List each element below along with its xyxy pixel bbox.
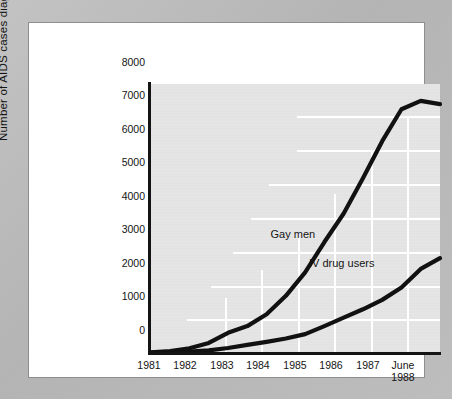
y-tick-6000: 6000 — [101, 124, 145, 134]
figure-root: Number of AIDS cases diagnosed 8000 7000… — [0, 0, 452, 399]
y-axis-line — [148, 82, 151, 355]
series-label-gay-men: Gay men — [271, 228, 316, 240]
series-curves — [151, 84, 440, 353]
y-tick-4000: 4000 — [101, 191, 145, 201]
y-tick-0: 0 — [101, 325, 145, 335]
y-tick-5000: 5000 — [101, 157, 145, 167]
y-axis-tick-labels: 8000 7000 6000 5000 4000 3000 2000 1000 … — [95, 23, 145, 399]
plot-area: Gay men IV drug users — [151, 84, 440, 353]
series-label-iv-drug-users: IV drug users — [309, 257, 374, 269]
x-axis-line — [148, 352, 441, 355]
y-tick-3000: 3000 — [101, 224, 145, 234]
x-tick-june-1988: June 1988 — [381, 360, 425, 383]
y-tick-2000: 2000 — [101, 258, 145, 268]
curve-gay-men — [151, 101, 440, 353]
chart-panel: Number of AIDS cases diagnosed 8000 7000… — [28, 22, 425, 378]
y-tick-7000: 7000 — [101, 90, 145, 100]
curve-iv-drug-users — [151, 258, 440, 352]
y-tick-8000: 8000 — [101, 57, 145, 67]
y-axis-title: Number of AIDS cases diagnosed — [0, 0, 9, 141]
y-tick-1000: 1000 — [101, 291, 145, 301]
